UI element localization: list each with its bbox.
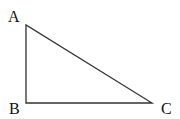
vertex-label-b: B: [9, 100, 20, 117]
triangle-diagram: A B C: [0, 0, 180, 119]
vertex-label-c: C: [161, 100, 172, 117]
triangle-abc: [26, 25, 152, 103]
vertex-label-a: A: [8, 8, 20, 25]
